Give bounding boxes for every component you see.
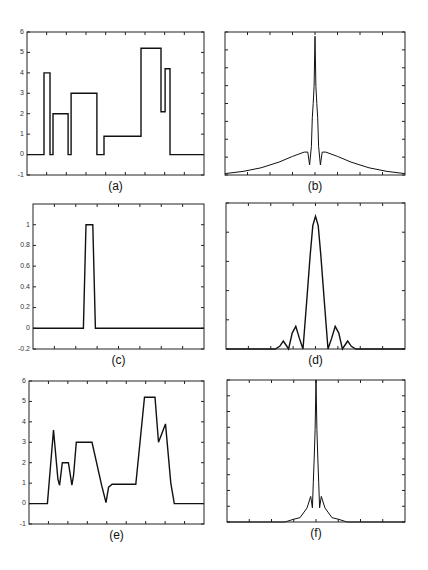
y-tick-label: -1	[18, 171, 24, 178]
panel-caption: (d)	[308, 353, 323, 367]
panel-caption: (f)	[310, 526, 321, 540]
panel-caption: (a)	[108, 179, 123, 193]
y-tick-label: 6	[20, 28, 24, 35]
y-tick-label: 1	[20, 130, 24, 137]
y-tick-label: 2	[20, 110, 24, 117]
y-tick-label: 4	[20, 69, 24, 76]
y-tick-label: 3	[22, 438, 26, 445]
y-tick-label: 0.4	[20, 283, 30, 290]
y-tick-label: 6	[22, 377, 26, 384]
y-tick-label: 1	[22, 479, 26, 486]
y-tick-label: 0	[22, 499, 26, 506]
panel-caption: (e)	[109, 528, 124, 542]
y-tick-label: -1	[20, 520, 26, 527]
y-tick-label: 2	[22, 459, 26, 466]
y-tick-label: 0.2	[20, 303, 30, 310]
figure-background	[0, 0, 428, 570]
y-tick-label: 0	[20, 150, 24, 157]
y-tick-label: 5	[22, 397, 26, 404]
y-tick-label: 5	[20, 48, 24, 55]
y-tick-label: 4	[22, 418, 26, 425]
panel-caption: (c)	[112, 353, 126, 367]
y-tick-label: 0.8	[20, 241, 30, 248]
y-tick-label: 1	[26, 221, 30, 228]
figure: -10123456 (a) (b) -0.200.20.40.60.81 (c)…	[0, 0, 428, 570]
y-tick-label: -0.2	[18, 345, 30, 352]
y-tick-label: 0	[26, 324, 30, 331]
y-tick-label: 3	[20, 89, 24, 96]
panel-caption: (b)	[308, 179, 323, 193]
y-tick-label: 0.6	[20, 262, 30, 269]
